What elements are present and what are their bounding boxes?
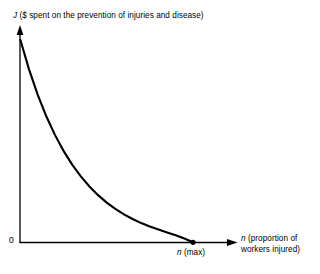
x-axis-symbol: n	[241, 234, 246, 243]
nmax-symbol: n	[177, 248, 182, 257]
curve-endpoint-marker	[190, 240, 195, 245]
origin-tick-label: 0	[9, 235, 14, 246]
y-axis-arrowhead	[17, 25, 24, 35]
y-axis-description: ($ spent on the prevention of injuries a…	[19, 11, 203, 20]
decay-curve	[20, 40, 193, 242]
nmax-text: (max)	[184, 248, 205, 257]
chart-plot-area	[0, 0, 320, 274]
x-axis-label: n (proportion ofworkers injured)	[241, 234, 319, 255]
x-axis-arrowhead	[227, 239, 238, 246]
x-axis-nmax-label: n (max)	[177, 248, 205, 259]
y-axis-label: J ($ spent on the prevention of injuries…	[13, 11, 204, 22]
chart-figure: J ($ spent on the prevention of injuries…	[0, 0, 320, 274]
x-axis-description-line2: workers injured)	[241, 245, 300, 254]
y-axis-symbol: J	[13, 11, 17, 20]
x-axis-description-line1: (proportion of	[248, 234, 297, 243]
